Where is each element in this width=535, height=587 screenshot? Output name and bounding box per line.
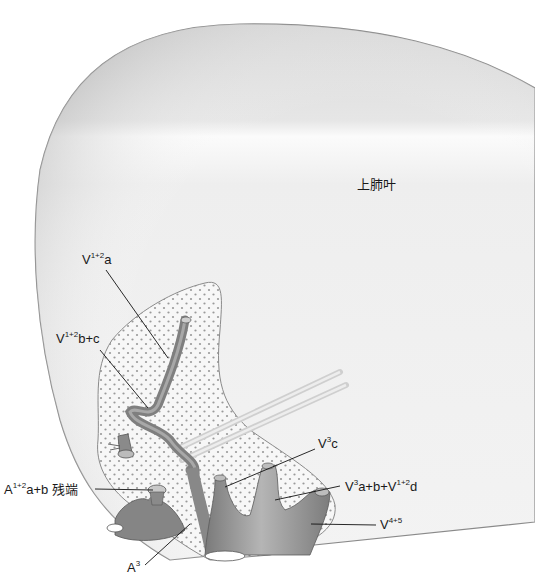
label-v12bc: V1+2b+c xyxy=(56,332,100,345)
label-v3c-sup: 3 xyxy=(327,435,331,444)
label-v12bc-sup: 1+2 xyxy=(65,330,79,339)
label-v3ab-sup2: 1+2 xyxy=(396,478,410,487)
label-v45-sup: 4+5 xyxy=(389,516,403,525)
label-a3-sup: 3 xyxy=(136,559,140,568)
label-a3-base: A xyxy=(127,560,136,575)
label-v3c: V3c xyxy=(318,437,338,450)
label-v3ab-base: V xyxy=(345,479,354,494)
label-v3ab-v12d: V3a+b+V1+2d xyxy=(345,480,417,493)
label-a12ab-rest: a+b 残端 xyxy=(26,482,78,497)
label-v12a: V1+2a xyxy=(82,253,111,266)
label-v3c-base: V xyxy=(318,436,327,451)
label-a12ab-stump: A1+2a+b 残端 xyxy=(4,483,78,496)
label-v45: V4+5 xyxy=(380,518,402,531)
label-v3ab-rest2: d xyxy=(410,479,417,494)
label-v12bc-base: V xyxy=(56,331,65,346)
label-v12a-base: V xyxy=(82,252,91,267)
label-a12ab-base: A xyxy=(4,482,13,497)
label-a12ab-sup: 1+2 xyxy=(13,481,27,490)
label-v12a-sup: 1+2 xyxy=(91,251,105,260)
lung-illustration xyxy=(0,0,535,587)
label-v12bc-rest: b+c xyxy=(78,331,99,346)
label-v3ab-rest: a+b+V xyxy=(358,479,396,494)
label-v3c-rest: c xyxy=(331,436,338,451)
label-v12a-rest: a xyxy=(104,252,111,267)
lobe-label: 上肺叶 xyxy=(357,178,396,191)
label-a3: A3 xyxy=(127,561,140,574)
label-v45-base: V xyxy=(380,517,389,532)
label-v3ab-sup: 3 xyxy=(354,478,358,487)
